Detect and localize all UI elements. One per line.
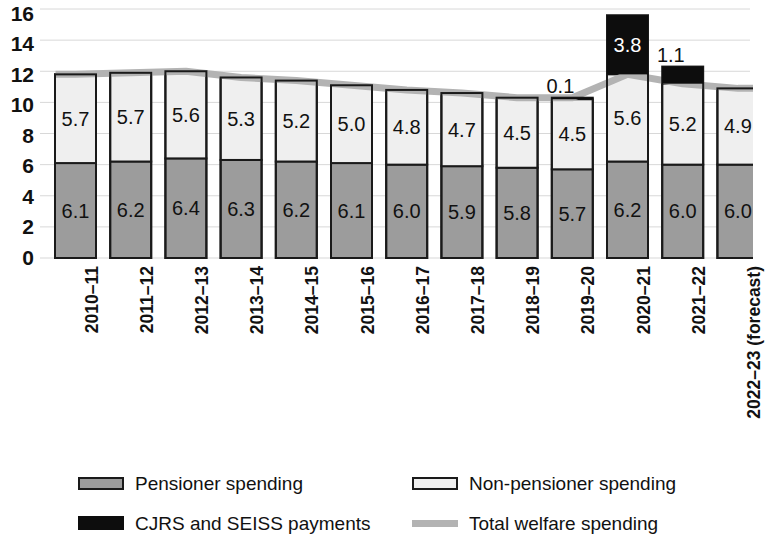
x-tick-label: 2020–21 bbox=[636, 266, 654, 446]
x-tick-label: 2022–23 (forecast) bbox=[746, 266, 764, 476]
x-tick-label: 2012–13 bbox=[194, 266, 212, 446]
x-axis: 2010–112011–122012–132013–142014–152015–… bbox=[0, 266, 753, 466]
legend-label-non-pensioner: Non-pensioner spending bbox=[469, 474, 676, 493]
bar-value-label: 6.0 bbox=[698, 201, 769, 221]
legend-label-total-welfare: Total welfare spending bbox=[469, 514, 658, 533]
x-tick-label: 2018–19 bbox=[525, 266, 543, 446]
x-tick-label: 2015–16 bbox=[360, 266, 378, 446]
value-labels: 6.15.76.25.76.45.66.35.36.25.26.15.06.04… bbox=[0, 0, 753, 275]
x-tick-label: 2019–20 bbox=[580, 266, 598, 446]
bar-value-label: 4.9 bbox=[698, 116, 769, 136]
x-tick-label: 2021–22 bbox=[691, 266, 709, 446]
x-tick-label: 2014–15 bbox=[304, 266, 322, 446]
x-tick-label: 2017–18 bbox=[470, 266, 488, 446]
legend-entry-cjrs-seiss: CJRS and SEISS payments bbox=[78, 510, 371, 536]
bar-value-label: 0.1 bbox=[514, 76, 574, 96]
x-tick-label: 2016–17 bbox=[415, 266, 433, 446]
chart-legend: Pensioner spending Non-pensioner spendin… bbox=[0, 466, 753, 543]
cjrs-seiss-swatch-icon bbox=[78, 516, 124, 530]
non-pensioner-swatch-icon bbox=[412, 477, 458, 490]
total-welfare-line-swatch-icon bbox=[412, 520, 458, 527]
legend-entry-total-welfare: Total welfare spending bbox=[412, 510, 658, 536]
legend-entry-pensioner: Pensioner spending bbox=[78, 470, 303, 496]
x-tick-label: 2010–11 bbox=[84, 266, 102, 446]
x-tick-label: 2011–12 bbox=[139, 266, 157, 446]
bar-value-label: 1.1 bbox=[625, 45, 685, 65]
legend-label-pensioner: Pensioner spending bbox=[135, 474, 303, 493]
legend-label-cjrs-seiss: CJRS and SEISS payments bbox=[135, 514, 371, 533]
legend-entry-non-pensioner: Non-pensioner spending bbox=[412, 470, 676, 496]
x-tick-label: 2013–14 bbox=[249, 266, 267, 446]
pensioner-swatch-icon bbox=[78, 477, 124, 490]
